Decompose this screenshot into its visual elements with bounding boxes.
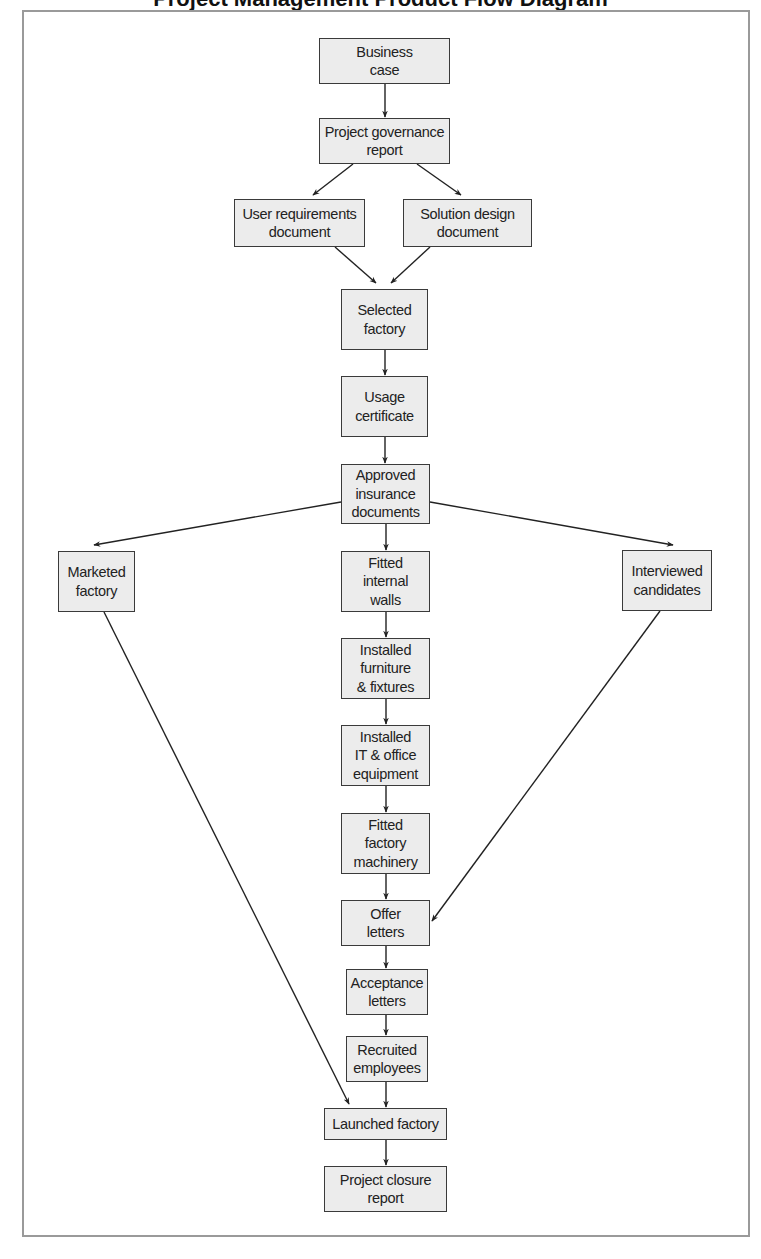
node-fitted-factory-machinery: Fitted factory machinery (341, 813, 430, 874)
node-offer-letters: Offer letters (341, 900, 430, 946)
node-marketed-factory: Marketed factory (58, 551, 135, 612)
node-launched-factory: Launched factory (324, 1108, 447, 1140)
node-interviewed-candidates: Interviewed candidates (622, 550, 712, 611)
node-project-closure-report: Project closure report (324, 1166, 447, 1212)
node-selected-factory: Selected factory (341, 289, 428, 350)
node-project-governance-report: Project governance report (319, 118, 450, 164)
node-approved-insurance-documents: Approved insurance documents (341, 464, 430, 524)
node-installed-furniture-fixtures: Installed furniture & fixtures (341, 638, 430, 699)
node-solution-design-document: Solution design document (403, 199, 532, 247)
node-recruited-employees: Recruited employees (346, 1036, 428, 1082)
diagram-title: Project Management Product Flow Diagram (0, 0, 761, 8)
node-user-requirements-document: User requirements document (234, 199, 365, 247)
node-acceptance-letters: Acceptance letters (346, 969, 428, 1015)
node-installed-it-office-equipment: Installed IT & office equipment (341, 725, 430, 786)
node-fitted-internal-walls: Fitted internal walls (341, 551, 430, 612)
node-usage-certificate: Usage certificate (341, 376, 428, 437)
node-business-case: Business case (319, 38, 450, 84)
